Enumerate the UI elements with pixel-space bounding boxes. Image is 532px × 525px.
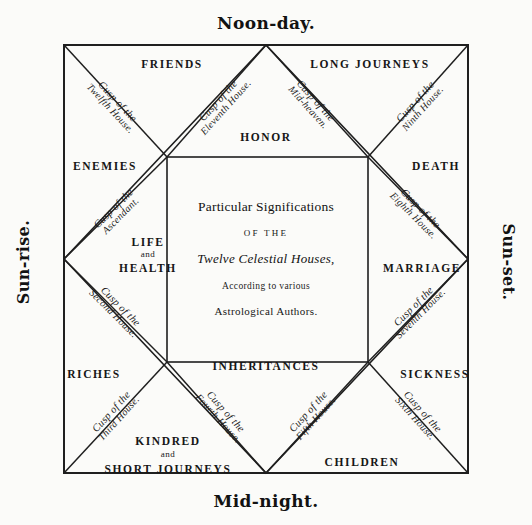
- house-label-friends: FRIENDS: [141, 58, 203, 70]
- house-label-children: CHILDREN: [325, 456, 400, 468]
- center-line-2: OF THE: [171, 228, 361, 238]
- center-inscription: Particular Significations OF THE Twelve …: [171, 199, 361, 317]
- house-label-inheritances: INHERITANCES: [212, 360, 319, 372]
- cardinal-label-sun-set: Sun-set.: [500, 224, 517, 301]
- house-label-kindred-conjunction: and: [78, 450, 258, 459]
- center-line-5: Astrological Authors.: [171, 305, 361, 317]
- center-line-3: Twelve Celestial Houses,: [171, 251, 361, 267]
- house-label-long-journeys: LONG JOURNEYS: [310, 58, 430, 70]
- house-label-riches: RICHES: [67, 368, 121, 380]
- center-line-1: Particular Significations: [171, 199, 361, 215]
- cardinal-label-noon-day: Noon-day.: [217, 15, 315, 33]
- house-label-enemies: ENEMIES: [73, 160, 137, 172]
- house-label-marriage: MARRIAGE: [383, 262, 461, 274]
- cardinal-label-sun-rise: Sun-rise.: [16, 220, 33, 304]
- astrological-house-chart: Noon-day. Mid-night. Sun-rise. Sun-set. …: [0, 0, 532, 525]
- house-label-sickness: SICKNESS: [400, 368, 470, 380]
- house-label-death: DEATH: [412, 160, 460, 172]
- cardinal-label-mid-night: Mid-night.: [213, 493, 318, 511]
- house-label-honor: HONOR: [240, 131, 291, 143]
- center-line-4: According to various: [171, 281, 361, 291]
- house-label-short-journeys: SHORT JOURNEYS: [78, 463, 258, 475]
